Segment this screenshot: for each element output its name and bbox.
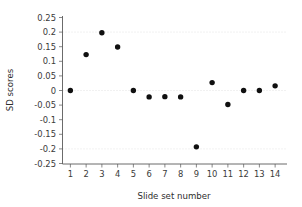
x-tick-label: 2 xyxy=(83,169,88,179)
y-tick-label: -0.05 xyxy=(34,100,56,110)
x-tick-label: 6 xyxy=(146,169,151,179)
data-point xyxy=(115,44,120,49)
y-axis-title: SD scores xyxy=(5,68,15,111)
y-tick-label: -0.2 xyxy=(40,144,56,154)
data-point xyxy=(131,88,136,93)
y-tick-label: 0.05 xyxy=(37,71,56,81)
data-point xyxy=(241,88,246,93)
data-point xyxy=(178,94,183,99)
x-tick-label: 4 xyxy=(115,169,120,179)
x-tick-label: 5 xyxy=(131,169,136,179)
data-point xyxy=(68,88,73,93)
x-tick-label: 14 xyxy=(270,169,281,179)
data-point xyxy=(225,102,230,107)
data-point xyxy=(83,52,88,57)
x-tick-label: 13 xyxy=(254,169,265,179)
x-tick-label: 11 xyxy=(223,169,234,179)
plot-canvas: 0.250.20.150.10.050-0.05-0.1-0.15-0.2-0.… xyxy=(0,0,302,207)
data-point xyxy=(99,30,104,35)
y-tick-label: -0.1 xyxy=(40,115,56,125)
scatter-plot-figure: 0.250.20.150.10.050-0.05-0.1-0.15-0.2-0.… xyxy=(0,0,302,207)
y-tick-label: 0.15 xyxy=(37,42,56,52)
x-tick-label: 12 xyxy=(238,169,249,179)
y-tick-label: 0 xyxy=(51,86,56,96)
x-axis-title: Slide set number xyxy=(137,191,211,201)
data-point xyxy=(162,94,167,99)
y-tick-label: -0.15 xyxy=(34,129,56,139)
y-tick-label: 0.25 xyxy=(37,13,56,23)
x-tick-label: 3 xyxy=(99,169,104,179)
x-tick-label: 10 xyxy=(207,169,218,179)
data-point xyxy=(272,83,277,88)
y-tick-label: -0.25 xyxy=(34,159,56,169)
data-point xyxy=(257,88,262,93)
data-point xyxy=(146,94,151,99)
data-point xyxy=(209,80,214,85)
x-tick-label: 7 xyxy=(162,169,167,179)
x-tick-label: 9 xyxy=(194,169,199,179)
x-tick-label: 8 xyxy=(178,169,183,179)
data-point xyxy=(194,144,199,149)
y-tick-label: 0.2 xyxy=(43,27,56,37)
y-tick-label: 0.1 xyxy=(43,56,56,66)
x-tick-label: 1 xyxy=(68,169,73,179)
